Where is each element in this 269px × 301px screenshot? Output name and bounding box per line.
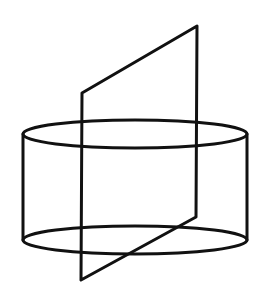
figure-canvas: Cylinder intersected by a planar quadril…: [0, 0, 269, 301]
geometry-figure: Cylinder intersected by a planar quadril…: [0, 0, 269, 301]
intersecting-plane: [81, 26, 197, 280]
cylinder-top-ellipse: [23, 120, 247, 148]
